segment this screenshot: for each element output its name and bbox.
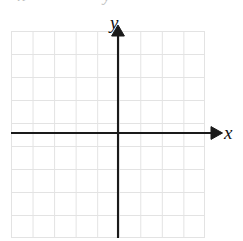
x-axis-label: x xyxy=(224,123,232,142)
arrow-right-icon xyxy=(211,127,223,140)
axes-layer xyxy=(0,0,243,241)
y-axis-label: y xyxy=(110,13,118,32)
coordinate-plane-figure: x y y x xyxy=(0,0,243,241)
